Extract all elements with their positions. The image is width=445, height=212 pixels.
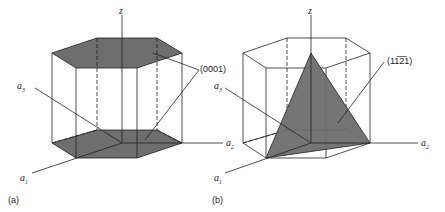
a1-axis-label-b: a1 <box>214 172 222 185</box>
caption-a: (a) <box>8 195 19 205</box>
a2-axis-label-b: a2 <box>421 137 429 150</box>
hexagonal-planes-diagram <box>0 0 445 212</box>
a3-axis-label-b: a3 <box>214 80 222 93</box>
caption-b: (b) <box>212 195 223 205</box>
plane-label-1121: (11̅2̅1) <box>387 56 412 66</box>
a2-axis-label-a: a2 <box>226 137 234 150</box>
panel-a-prism <box>32 15 223 173</box>
z-axis-label-a: z <box>119 5 123 16</box>
panel-b-prism <box>225 15 418 173</box>
a1-axis-label-a: a1 <box>20 172 28 185</box>
plane-label-0001: (0001) <box>200 64 226 74</box>
a3-axis-label-a: a3 <box>17 80 25 93</box>
z-axis-label-b: z <box>308 5 312 16</box>
